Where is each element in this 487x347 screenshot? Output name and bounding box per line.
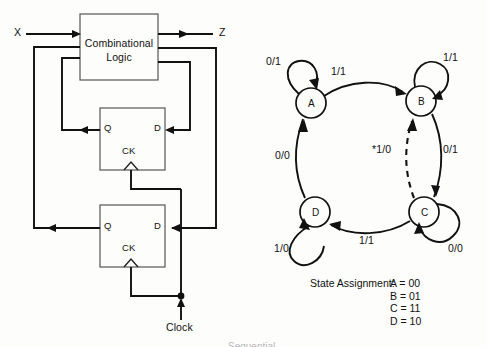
state-assignment-heading: State Assignment: — [310, 277, 395, 289]
transition-label-B-C: 0/1 — [443, 144, 458, 156]
transition-label-B-B: 1/1 — [443, 52, 458, 64]
transition-B-C-path — [432, 114, 441, 197]
transition-A-B-arrowhead — [395, 86, 407, 96]
state-label-D: D — [312, 207, 319, 218]
transition-label-A-B: 1/1 — [331, 66, 346, 78]
transition-label-C-C: 0/0 — [448, 243, 463, 255]
transition-C-D-path — [331, 221, 410, 233]
state-assignment-codes: A = 00 B = 01 C = 11 D = 10 — [390, 277, 421, 327]
state-label-A: A — [308, 98, 315, 109]
transition-C-D-arrowhead — [329, 221, 341, 231]
transition-A-B-path — [324, 83, 403, 96]
cut-off-caption: Sequential — [228, 341, 275, 347]
transition-B-C-arrowhead — [431, 185, 440, 197]
state-label-C: C — [421, 207, 428, 218]
transition-C-B-arrowhead — [407, 118, 417, 131]
transition-label-C-D: 1/1 — [359, 235, 374, 247]
state-label-B: B — [418, 96, 425, 107]
figure-page: X Z Combinational Logic Q D CK Q D CK Cl… — [0, 0, 487, 347]
transition-A-A-path — [288, 61, 317, 94]
transition-label-D-D: 1/0 — [274, 243, 289, 255]
transition-D-D-arrowhead — [299, 218, 310, 230]
transition-label-D-A: 0/0 — [275, 150, 290, 162]
transition-D-D-path — [290, 226, 324, 265]
transition-C-B-dashed-path — [406, 121, 414, 198]
transition-label-C-B: *1/0 — [372, 144, 391, 156]
transition-label-A-A: 0/1 — [266, 56, 281, 68]
